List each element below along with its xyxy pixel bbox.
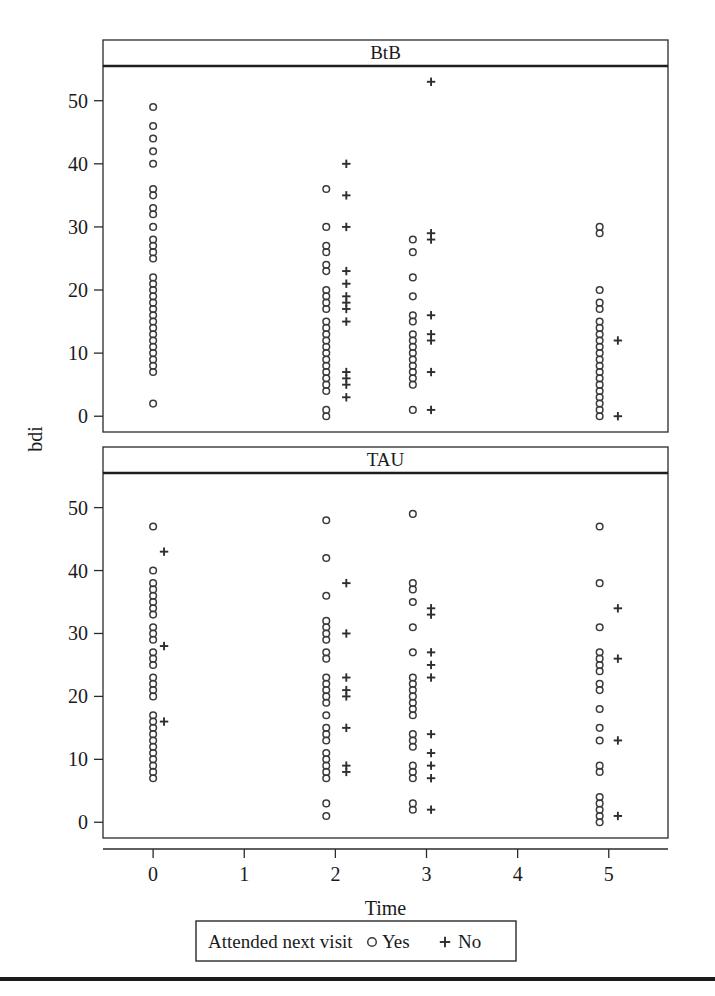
y-tick-label: 20 bbox=[68, 685, 88, 707]
y-tick-label: 40 bbox=[68, 560, 88, 582]
data-point-yes bbox=[410, 249, 417, 256]
data-point-yes bbox=[410, 274, 417, 281]
data-point-yes bbox=[323, 813, 330, 820]
data-point-yes bbox=[323, 592, 330, 599]
data-point-yes bbox=[323, 186, 330, 193]
figure-container: BtB01020304050TAU01020304050012345Timebd… bbox=[0, 0, 715, 996]
series-yes bbox=[150, 104, 603, 420]
data-point-yes bbox=[323, 555, 330, 562]
data-point-yes bbox=[410, 407, 417, 414]
series-yes bbox=[150, 511, 603, 826]
data-point-yes bbox=[410, 293, 417, 300]
legend-yes-label: Yes bbox=[382, 931, 410, 952]
data-point-yes bbox=[150, 224, 157, 231]
x-tick-label: 5 bbox=[604, 863, 614, 885]
scatter-plot-svg: BtB01020304050TAU01020304050012345Timebd… bbox=[0, 0, 715, 996]
data-point-yes bbox=[323, 800, 330, 807]
y-tick-label: 20 bbox=[68, 279, 88, 301]
legend-title: Attended next visit bbox=[208, 931, 353, 952]
data-point-yes bbox=[323, 224, 330, 231]
data-point-yes bbox=[150, 148, 157, 155]
data-point-yes bbox=[596, 523, 603, 530]
data-point-yes bbox=[150, 135, 157, 142]
y-tick-label: 10 bbox=[68, 748, 88, 770]
x-tick-label: 1 bbox=[239, 863, 249, 885]
y-tick-label: 30 bbox=[68, 622, 88, 644]
x-axis-title: Time bbox=[365, 897, 407, 919]
data-point-yes bbox=[596, 737, 603, 744]
data-point-yes bbox=[150, 567, 157, 574]
data-point-yes bbox=[410, 624, 417, 631]
data-point-yes bbox=[150, 161, 157, 168]
series-no bbox=[342, 78, 622, 421]
y-tick-label: 0 bbox=[78, 811, 88, 833]
data-point-yes bbox=[596, 287, 603, 294]
data-point-yes bbox=[410, 599, 417, 606]
data-point-yes bbox=[150, 123, 157, 130]
x-tick-label: 3 bbox=[422, 863, 432, 885]
y-tick-label: 50 bbox=[68, 497, 88, 519]
y-axis-title: bdi bbox=[24, 426, 46, 452]
data-point-yes bbox=[150, 523, 157, 530]
data-point-yes bbox=[596, 580, 603, 587]
data-point-yes bbox=[323, 712, 330, 719]
y-tick-label: 30 bbox=[68, 216, 88, 238]
panel-tau: TAU01020304050 bbox=[68, 447, 668, 838]
data-point-yes bbox=[323, 517, 330, 524]
panel-frame bbox=[103, 40, 668, 432]
x-tick-label: 0 bbox=[148, 863, 158, 885]
data-point-yes bbox=[410, 511, 417, 518]
panel-strip-label: TAU bbox=[367, 449, 405, 470]
panel-frame bbox=[103, 447, 668, 838]
panel-strip-label: BtB bbox=[370, 42, 401, 63]
data-point-yes bbox=[596, 725, 603, 732]
y-tick-label: 50 bbox=[68, 90, 88, 112]
y-tick-label: 40 bbox=[68, 153, 88, 175]
data-point-yes bbox=[150, 400, 157, 407]
x-tick-label: 2 bbox=[330, 863, 340, 885]
data-point-yes bbox=[410, 236, 417, 243]
x-tick-label: 4 bbox=[513, 863, 523, 885]
data-point-yes bbox=[596, 706, 603, 713]
legend-yes-icon bbox=[368, 938, 377, 947]
legend-no-label: No bbox=[458, 931, 481, 952]
y-tick-label: 0 bbox=[78, 405, 88, 427]
data-point-yes bbox=[150, 104, 157, 111]
data-point-yes bbox=[596, 624, 603, 631]
y-tick-label: 10 bbox=[68, 342, 88, 364]
panel-btb: BtB01020304050 bbox=[68, 40, 668, 432]
series-no bbox=[160, 547, 622, 820]
data-point-yes bbox=[410, 649, 417, 656]
